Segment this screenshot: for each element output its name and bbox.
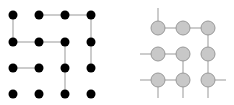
node — [151, 73, 165, 87]
dot — [35, 64, 44, 73]
dot — [9, 64, 18, 73]
diagram-canvas — [0, 0, 234, 105]
dot — [61, 64, 70, 73]
node — [176, 73, 190, 87]
left-grid-dots — [9, 11, 96, 99]
dot — [61, 11, 70, 20]
dot — [61, 90, 70, 99]
dot — [35, 90, 44, 99]
dot — [35, 11, 44, 20]
node — [201, 47, 215, 61]
node — [176, 21, 190, 35]
node — [151, 21, 165, 35]
dot — [87, 11, 96, 20]
dot — [35, 38, 44, 47]
left-grid-edges — [13, 15, 91, 94]
node — [201, 73, 215, 87]
dot — [9, 11, 18, 20]
right-grid-nodes — [151, 21, 215, 87]
node — [201, 21, 215, 35]
dot — [87, 64, 96, 73]
left-grid — [9, 11, 96, 99]
node — [151, 47, 165, 61]
dot — [87, 90, 96, 99]
dot — [9, 38, 18, 47]
node — [176, 47, 190, 61]
dot — [61, 38, 70, 47]
dot — [9, 90, 18, 99]
dot — [87, 38, 96, 47]
right-grid — [140, 8, 226, 98]
